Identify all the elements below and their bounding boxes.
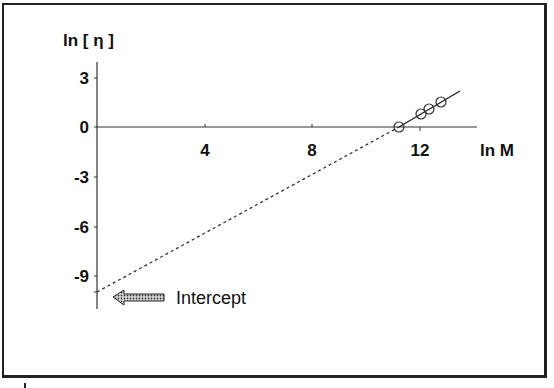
ytick-label: -9 xyxy=(74,267,89,286)
intercept-label: Intercept xyxy=(176,288,246,308)
intercept-arrow-icon xyxy=(113,290,164,305)
extrapolation-line xyxy=(97,127,399,292)
stray-mark xyxy=(24,383,26,388)
ytick-label: 0 xyxy=(80,118,89,137)
y-axis-title: ln [ η ] xyxy=(63,31,114,50)
xtick-label: 8 xyxy=(307,141,316,160)
ytick-label: 3 xyxy=(80,69,89,88)
xtick-label: 4 xyxy=(200,141,210,160)
ytick-label: -3 xyxy=(74,168,89,187)
chart-plot: ln [ η ] 3 0 -3 -6 -9 4 8 12 ln M Interc xyxy=(0,0,554,388)
xtick-label: 12 xyxy=(411,141,430,160)
x-axis-title: ln M xyxy=(480,141,514,160)
fit-line xyxy=(399,91,460,127)
ytick-label: -6 xyxy=(74,218,89,237)
